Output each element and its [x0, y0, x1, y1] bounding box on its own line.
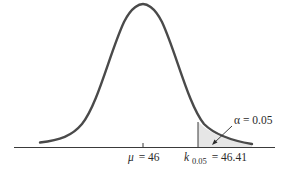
mean-label: μ = 46 [127, 151, 160, 164]
normal-curve [40, 4, 252, 144]
alpha-label: α = 0.05 [234, 114, 273, 126]
critical-subscript: 0.05 [192, 156, 207, 166]
critical-value: = 46.41 [212, 151, 247, 163]
mean-symbol: μ [127, 151, 134, 164]
normal-distribution-diagram: α = 0.05 μ = 46 k 0.05 = 46.41 [0, 0, 286, 176]
critical-value-label: k 0.05 = 46.41 [184, 151, 247, 166]
mean-value: = 46 [139, 151, 160, 163]
critical-symbol: k [184, 151, 190, 163]
